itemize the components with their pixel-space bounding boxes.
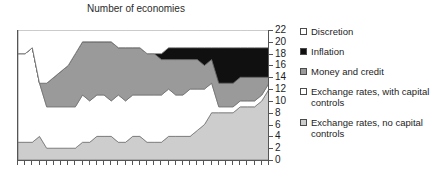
legend-swatch-icon <box>300 119 307 126</box>
x-tick <box>67 161 68 165</box>
legend-label: Discretion <box>311 26 353 37</box>
x-tick <box>117 161 118 165</box>
y-tick <box>269 125 273 126</box>
y-tick-label: 10 <box>275 96 286 106</box>
x-tick <box>96 161 97 165</box>
legend-label: Exchange rates, with capital controls <box>311 86 429 108</box>
legend-item[interactable]: Money and credit <box>300 66 441 77</box>
legend-item[interactable]: Discretion <box>300 26 441 37</box>
y-tick-label: 18 <box>275 49 286 59</box>
legend-label: Money and credit <box>311 66 384 77</box>
legend-swatch-icon <box>300 28 307 35</box>
y-tick <box>269 148 273 149</box>
x-tick <box>218 161 219 165</box>
x-tick <box>211 161 212 165</box>
legend-item[interactable]: Inflation <box>300 46 441 57</box>
x-tick <box>203 161 204 165</box>
plot-area <box>17 30 268 160</box>
x-tick <box>153 161 154 165</box>
legend-label: Exchange rates, no capital controls <box>311 117 423 139</box>
x-tick <box>46 161 47 165</box>
x-tick <box>160 161 161 165</box>
x-tick <box>254 161 255 165</box>
legend-item[interactable]: Exchange rates, with capital controls <box>300 86 441 108</box>
y-tick <box>269 77 273 78</box>
y-tick-label: 16 <box>275 60 286 70</box>
y-tick-label: 22 <box>275 25 286 35</box>
y-tick-label: 14 <box>275 72 286 82</box>
x-tick <box>189 161 190 165</box>
x-tick <box>17 161 18 165</box>
x-tick <box>168 161 169 165</box>
x-tick <box>103 161 104 165</box>
x-tick <box>146 161 147 165</box>
chart-title: Number of economies <box>0 3 272 14</box>
y-tick-label: 20 <box>275 37 286 47</box>
legend-label: Inflation <box>311 46 344 57</box>
chart-legend: DiscretionInflationMoney and creditExcha… <box>300 26 441 148</box>
x-tick <box>125 161 126 165</box>
x-tick <box>132 161 133 165</box>
legend-swatch-icon <box>300 88 307 95</box>
x-tick <box>239 161 240 165</box>
legend-swatch-icon <box>300 68 307 75</box>
x-tick <box>24 161 25 165</box>
x-tick <box>225 161 226 165</box>
y-tick <box>269 65 273 66</box>
x-tick <box>82 161 83 165</box>
x-tick <box>39 161 40 165</box>
y-tick <box>269 89 273 90</box>
y-tick-label: 8 <box>275 108 281 118</box>
legend-swatch-icon <box>300 48 307 55</box>
x-tick <box>74 161 75 165</box>
x-tick <box>60 161 61 165</box>
y-tick-label: 12 <box>275 84 286 94</box>
x-tick <box>268 161 269 165</box>
y-tick <box>269 42 273 43</box>
y-axis-line <box>268 30 269 161</box>
y-tick-label: 6 <box>275 120 281 130</box>
y-tick <box>269 54 273 55</box>
x-tick <box>196 161 197 165</box>
x-tick <box>182 161 183 165</box>
y-tick-label: 4 <box>275 131 281 141</box>
y-tick-label: 0 <box>275 155 281 165</box>
y-tick <box>269 113 273 114</box>
chart-figure: Number of economies 2220181614121086420 … <box>0 0 441 180</box>
x-tick <box>261 161 262 165</box>
x-tick <box>139 161 140 165</box>
x-tick <box>110 161 111 165</box>
x-tick <box>53 161 54 165</box>
x-tick <box>246 161 247 165</box>
stacked-area-svg <box>18 30 269 160</box>
x-tick <box>175 161 176 165</box>
x-tick <box>31 161 32 165</box>
y-tick <box>269 30 273 31</box>
y-tick-label: 2 <box>275 143 281 153</box>
x-tick <box>89 161 90 165</box>
legend-item[interactable]: Exchange rates, no capital controls <box>300 117 441 139</box>
y-tick <box>269 160 273 161</box>
y-tick <box>269 136 273 137</box>
y-tick <box>269 101 273 102</box>
x-tick <box>232 161 233 165</box>
